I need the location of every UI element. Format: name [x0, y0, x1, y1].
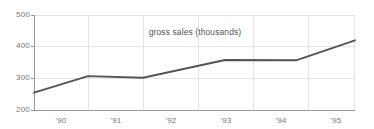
data-series-line — [34, 40, 355, 92]
y-tick-label-400: 400 — [6, 42, 30, 50]
x-tick-label-94: '94 — [266, 117, 296, 125]
line-chart: 500 400 300 200 '90 '91 '92 '93 '94 '95 … — [0, 0, 374, 129]
y-tick-label-200: 200 — [6, 106, 30, 114]
horizontal-gridlines — [34, 16, 355, 79]
chart-canvas — [0, 0, 374, 129]
chart-title: gross sales (thousands) — [120, 27, 270, 37]
x-tick-label-95: '95 — [321, 117, 351, 125]
x-tick-label-90: '90 — [46, 117, 76, 125]
x-tick-label-93: '93 — [211, 117, 241, 125]
y-tick-label-500: 500 — [6, 11, 30, 19]
y-tick-label-300: 300 — [6, 74, 30, 82]
y-tick-marks — [31, 16, 34, 111]
x-tick-label-91: '91 — [101, 117, 131, 125]
x-tick-label-92: '92 — [156, 117, 186, 125]
